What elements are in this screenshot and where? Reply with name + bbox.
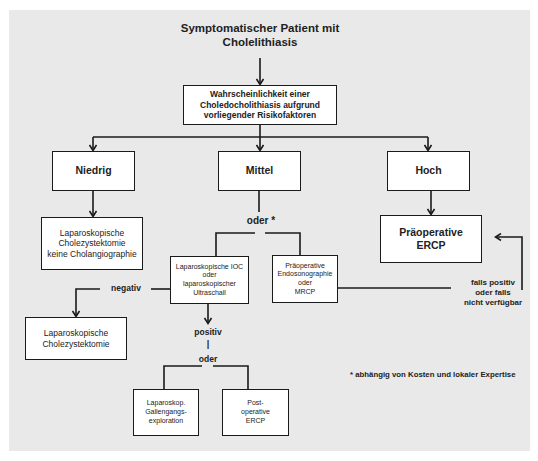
label-negativ: negativ — [101, 283, 151, 294]
node-preop-eus-mrcp: Präoperative Endosonographie oder MRCP — [272, 255, 338, 303]
label-bar: | — [198, 339, 218, 350]
node-preop-ercp: Präoperative ERCP — [380, 215, 482, 263]
node-high: Hoch — [387, 151, 470, 191]
label-positiv: positiv — [183, 327, 233, 338]
bracket-oder-right — [265, 233, 300, 255]
label-falls-positiv: falls positiv oder falls nicht verfügbar — [455, 278, 531, 308]
node-lap-ioc: Laparoskopische IOC oder laparoskopische… — [170, 256, 249, 304]
node-low: Niedrig — [52, 151, 135, 191]
node-postop-ercp: Post- operative ERCP — [222, 389, 289, 436]
node-probability: Wahrscheinlichkeit einer Choledocholithi… — [183, 85, 337, 125]
arrow-negativ-to-lapchole — [76, 289, 100, 316]
bracket-bottom-left — [164, 366, 202, 389]
node-lap-chole: Laparoskopische Cholezystektomie — [25, 317, 127, 360]
node-medium: Mittel — [218, 151, 301, 191]
bracket-bottom-right — [213, 366, 248, 389]
diagram-title: Symptomatischer Patient mit Cholelithias… — [175, 21, 345, 50]
label-oder-star: oder * — [236, 215, 286, 228]
node-lap-cbd-exploration: Laparoskop. Gallengangs- exploration — [133, 389, 199, 436]
node-lap-chole-no-cholangio: Laparoskopische Cholezystektomie keine C… — [41, 217, 143, 270]
label-oder: oder — [186, 354, 230, 365]
footnote: * abhängig von Kosten und lokaler Expert… — [350, 370, 538, 380]
bracket-oder-left — [216, 233, 255, 256]
